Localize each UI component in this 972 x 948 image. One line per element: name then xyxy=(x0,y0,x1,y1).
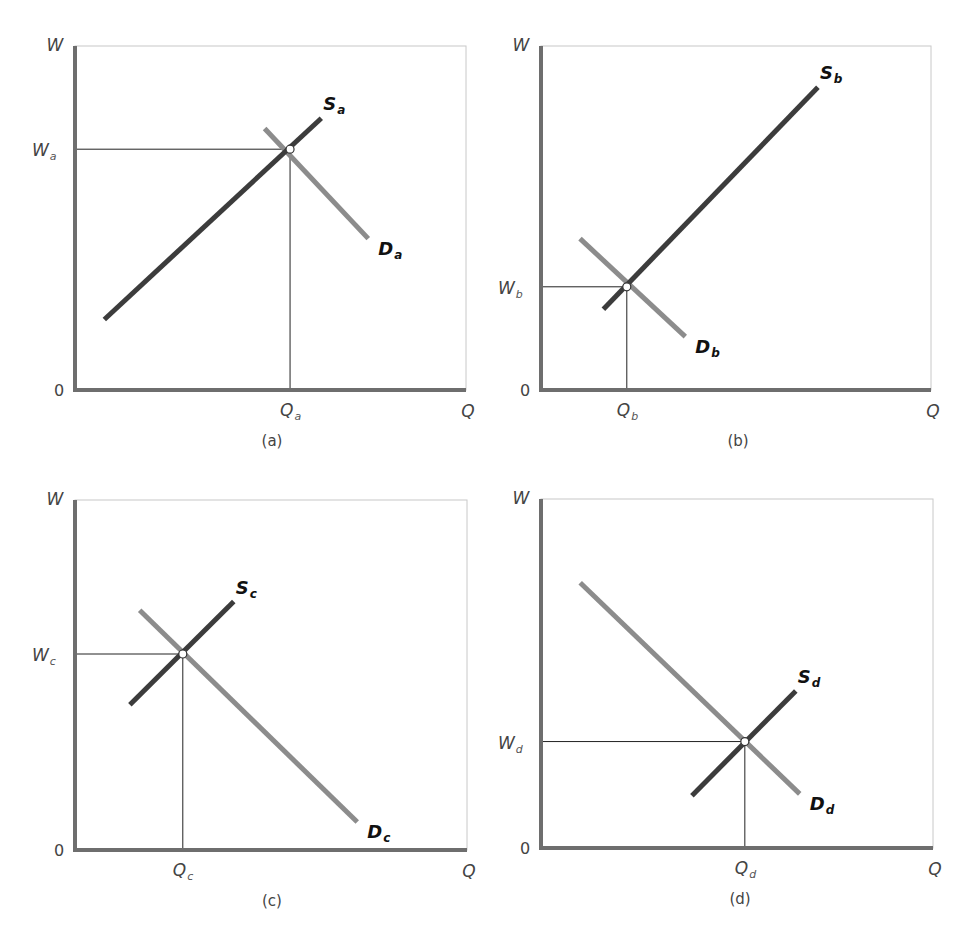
equilibrium-wage-label-main: W xyxy=(32,140,50,160)
supply-curve-label-main: S xyxy=(236,577,249,598)
panel-c: DcScWQ0WcQc(c) xyxy=(32,489,476,910)
equilibrium-wage-label: Wa xyxy=(32,140,57,163)
figure: DaSaWQ0WaQa(a)DbSbWQ0WbQb(b)DcScWQ0WcQc(… xyxy=(0,0,972,948)
x-axis-label-main: Q xyxy=(462,861,475,881)
panel-d: DdSdWQ0WdQd(d) xyxy=(498,488,942,908)
panel-label-main: (c) xyxy=(262,892,282,910)
y-axis-label: W xyxy=(513,488,531,508)
supply-curve-label: Sd xyxy=(798,666,821,690)
panel-label: (a) xyxy=(262,432,283,450)
demand-curve-label-subscript: a xyxy=(394,248,402,262)
origin-label-main: 0 xyxy=(520,381,530,400)
origin-label: 0 xyxy=(520,839,530,858)
equilibrium-wage-label-main: W xyxy=(498,733,516,753)
supply-curve-label: Sa xyxy=(323,93,345,117)
panel-label-main: (a) xyxy=(262,432,283,450)
equilibrium-quantity-label-main: Q xyxy=(173,860,186,880)
equilibrium-wage-label: Wc xyxy=(32,645,56,668)
equilibrium-quantity-label-subscript: c xyxy=(187,870,193,883)
demand-curve-label-main: D xyxy=(367,821,382,842)
supply-curve-label-main: S xyxy=(323,93,336,114)
origin-label: 0 xyxy=(520,381,530,400)
demand-curve-label-subscript: b xyxy=(711,346,720,360)
equilibrium-quantity-label-subscript: b xyxy=(631,410,638,423)
demand-curve-label-subscript: c xyxy=(383,831,390,845)
y-axis-label: W xyxy=(47,489,65,509)
panel-label-main: (b) xyxy=(727,432,748,450)
y-axis-label-main: W xyxy=(47,35,65,55)
demand-curve-label-subscript: d xyxy=(826,803,835,817)
demand-curve xyxy=(140,610,358,822)
equilibrium-wage-label-subscript: d xyxy=(516,743,524,756)
demand-curve xyxy=(265,129,369,239)
equilibrium-wage-label: Wb xyxy=(498,278,523,301)
equilibrium-wage-label: Wd xyxy=(498,733,524,756)
panel-b: DbSbWQ0WbQb(b) xyxy=(498,35,940,450)
equilibrium-quantity-label-main: Q xyxy=(735,858,748,878)
equilibrium-quantity-label-subscript: a xyxy=(294,410,301,423)
panel-a: DaSaWQ0WaQa(a) xyxy=(32,35,475,450)
panel-label: (c) xyxy=(262,892,282,910)
x-axis-label: Q xyxy=(926,401,939,421)
supply-curve-label-main: S xyxy=(798,666,811,687)
x-axis-label: Q xyxy=(462,861,475,881)
origin-label-main: 0 xyxy=(54,841,64,860)
origin-label: 0 xyxy=(54,381,64,400)
supply-curve-label: Sb xyxy=(820,62,843,86)
demand-curve xyxy=(580,239,685,337)
equilibrium-quantity-label: Qd xyxy=(735,858,757,881)
equilibrium-point xyxy=(741,738,749,746)
equilibrium-quantity-label-subscript: d xyxy=(749,868,757,881)
plot-frame xyxy=(75,500,467,850)
equilibrium-quantity-label: Qb xyxy=(617,400,638,423)
y-axis-label-main: W xyxy=(513,488,531,508)
demand-curve-label: Db xyxy=(695,336,720,360)
equilibrium-quantity-label-main: Q xyxy=(280,400,293,420)
demand-curve-label: Dc xyxy=(367,821,390,845)
plot-frame xyxy=(75,46,466,390)
supply-curve-label-subscript: a xyxy=(337,103,345,117)
demand-curve-label: Da xyxy=(378,238,402,262)
demand-curve-label-main: D xyxy=(810,793,825,814)
demand-curve-label: Dd xyxy=(810,793,835,817)
supply-curve-label: Sc xyxy=(236,577,257,601)
equilibrium-quantity-label: Qa xyxy=(280,400,301,423)
demand-curve-label-main: D xyxy=(695,336,710,357)
equilibrium-quantity-label-main: Q xyxy=(617,400,630,420)
y-axis-label: W xyxy=(47,35,65,55)
x-axis-label-main: Q xyxy=(928,859,941,879)
panel-label: (d) xyxy=(729,890,750,908)
y-axis-label-main: W xyxy=(513,35,531,55)
x-axis-label: Q xyxy=(928,859,941,879)
x-axis-label-main: Q xyxy=(926,401,939,421)
equilibrium-wage-label-subscript: c xyxy=(50,655,56,668)
y-axis-label: W xyxy=(513,35,531,55)
equilibrium-wage-label-subscript: b xyxy=(516,288,523,301)
equilibrium-wage-label-main: W xyxy=(32,645,50,665)
y-axis-label-main: W xyxy=(47,489,65,509)
x-axis-label: Q xyxy=(461,401,474,421)
x-axis-label-main: Q xyxy=(461,401,474,421)
demand-curve-label-main: D xyxy=(378,238,393,259)
supply-curve-label-main: S xyxy=(820,62,833,83)
origin-label: 0 xyxy=(54,841,64,860)
supply-curve xyxy=(603,87,818,309)
panel-label: (b) xyxy=(727,432,748,450)
supply-curve-label-subscript: b xyxy=(834,72,843,86)
equilibrium-wage-label-main: W xyxy=(498,278,516,298)
origin-label-main: 0 xyxy=(520,839,530,858)
equilibrium-quantity-label: Qc xyxy=(173,860,193,883)
panel-label-main: (d) xyxy=(729,890,750,908)
origin-label-main: 0 xyxy=(54,381,64,400)
equilibrium-wage-label-subscript: a xyxy=(50,150,57,163)
demand-curve xyxy=(580,583,800,794)
supply-curve-label-subscript: d xyxy=(812,676,821,690)
plot-frame xyxy=(541,46,931,390)
supply-curve-label-subscript: c xyxy=(250,587,257,601)
equilibrium-point xyxy=(179,650,187,658)
plot-frame xyxy=(541,499,933,848)
equilibrium-point xyxy=(623,283,631,291)
equilibrium-point xyxy=(286,145,294,153)
